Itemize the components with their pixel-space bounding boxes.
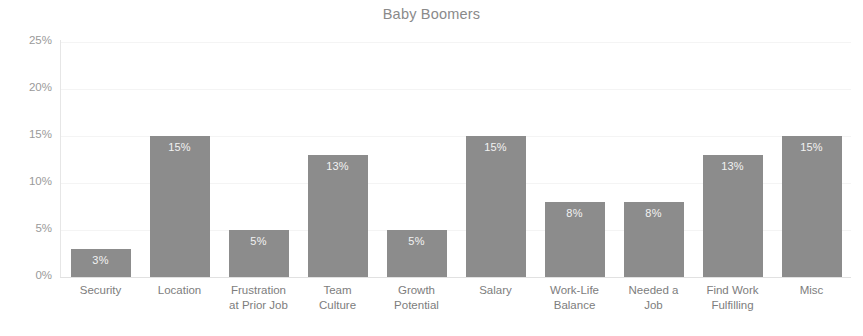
bar-slot: 13% (703, 42, 763, 277)
x-axis-line (60, 277, 851, 278)
x-category-label: Work-Life Balance (535, 283, 614, 312)
x-category-label: Needed a Job (614, 283, 693, 312)
bar-slot: 8% (624, 42, 684, 277)
bar-chart: Baby Boomers 0%5%10%15%20%25% 3%15%5%13%… (0, 0, 863, 336)
bar-value-label: 3% (71, 254, 131, 266)
bar-slot: 5% (229, 42, 289, 277)
bar[interactable]: 15% (782, 136, 842, 277)
bar[interactable]: 13% (308, 155, 368, 277)
plot-area: 3%15%5%13%5%15%8%8%13%15% (61, 42, 851, 277)
x-category-label: Security (61, 283, 140, 298)
bar-slot: 15% (150, 42, 210, 277)
y-tick-label: 15% (4, 128, 52, 140)
y-tick-label: 10% (4, 175, 52, 187)
y-tick-label: 5% (4, 222, 52, 234)
x-category-label: Misc (772, 283, 851, 298)
bar[interactable]: 5% (387, 230, 447, 277)
bar[interactable]: 15% (150, 136, 210, 277)
bar-slot: 15% (466, 42, 526, 277)
bar-value-label: 8% (624, 207, 684, 219)
bar-value-label: 5% (229, 235, 289, 247)
x-category-label: Find Work Fulfilling (693, 283, 772, 312)
x-category-label: Team Culture (298, 283, 377, 312)
y-tick-label: 0% (4, 269, 52, 281)
bar[interactable]: 5% (229, 230, 289, 277)
bar-slot: 13% (308, 42, 368, 277)
x-category-label: Salary (456, 283, 535, 298)
x-category-label: Growth Potential (377, 283, 456, 312)
bar-value-label: 15% (150, 141, 210, 153)
bar-value-label: 8% (545, 207, 605, 219)
bar-slot: 15% (782, 42, 842, 277)
chart-title: Baby Boomers (0, 6, 863, 22)
bar[interactable]: 8% (624, 202, 684, 277)
bar-value-label: 13% (308, 160, 368, 172)
bar-value-label: 5% (387, 235, 447, 247)
bar-value-label: 15% (466, 141, 526, 153)
x-category-label: Location (140, 283, 219, 298)
bar-slot: 3% (71, 42, 131, 277)
bar-value-label: 15% (782, 141, 842, 153)
bar[interactable]: 3% (71, 249, 131, 277)
y-tick-label: 20% (4, 81, 52, 93)
y-tick-label: 25% (4, 34, 52, 46)
bar[interactable]: 8% (545, 202, 605, 277)
bar[interactable]: 13% (703, 155, 763, 277)
bar-value-label: 13% (703, 160, 763, 172)
bar-slot: 8% (545, 42, 605, 277)
x-category-label: Frustration at Prior Job (219, 283, 298, 312)
bar-slot: 5% (387, 42, 447, 277)
bar[interactable]: 15% (466, 136, 526, 277)
